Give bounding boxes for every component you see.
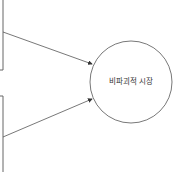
bottom-arrow: [3, 99, 92, 137]
top-bracket: [0, 0, 3, 70]
top-arrow: [3, 32, 92, 64]
circle-label: 비파괴적 시장: [90, 73, 172, 91]
bottom-bracket: [0, 96, 3, 172]
